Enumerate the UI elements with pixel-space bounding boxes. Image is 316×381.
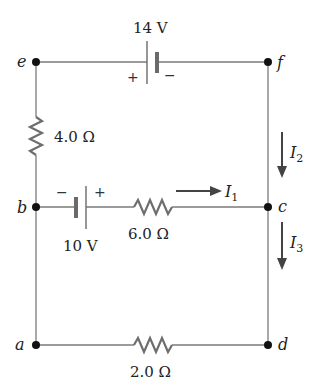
current-i2-label: I2 — [289, 143, 303, 165]
node-f — [264, 58, 272, 66]
node-b — [32, 203, 40, 211]
battery-top-voltage-label: 14 V — [133, 19, 169, 37]
node-label-d: d — [278, 335, 288, 354]
circuit-diagram: e f b c a d 14 V + − 10 V − + 4.0 Ω 6.0 … — [0, 0, 316, 381]
resistor-bottom — [134, 338, 172, 352]
current-i2-arrowhead — [277, 166, 287, 178]
battery-middle-plus-sign: + — [94, 184, 106, 200]
resistor-middle — [134, 200, 172, 214]
node-label-a: a — [15, 335, 25, 354]
node-label-b: b — [17, 198, 27, 217]
resistor-middle-label: 6.0 Ω — [128, 225, 169, 243]
current-i1-arrowhead — [210, 186, 222, 196]
current-i1-label: I1 — [224, 182, 238, 204]
battery-top-plus-sign: + — [127, 69, 139, 85]
node-label-f: f — [276, 53, 286, 72]
current-i3-label: I3 — [289, 233, 303, 255]
current-i3-arrowhead — [277, 258, 287, 270]
node-d — [264, 341, 272, 349]
node-label-e: e — [17, 52, 26, 71]
battery-middle-minus-sign: − — [56, 184, 68, 200]
node-c — [264, 203, 272, 211]
resistor-bottom-label: 2.0 Ω — [130, 363, 171, 381]
node-label-c: c — [278, 197, 287, 216]
node-e — [32, 58, 40, 66]
resistor-left — [30, 117, 42, 155]
battery-middle-voltage-label: 10 V — [63, 237, 99, 255]
node-a — [32, 341, 40, 349]
resistor-left-label: 4.0 Ω — [54, 128, 95, 146]
battery-top-minus-sign: − — [164, 67, 176, 83]
